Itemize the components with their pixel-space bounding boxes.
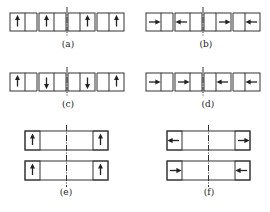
panel-label-b: (b) [200,39,213,49]
panel-e [25,125,108,187]
pole-frame [68,73,80,91]
panel-c [10,67,124,97]
pole-frame [233,13,245,31]
panel-b [146,7,260,37]
pole-frame [161,73,173,91]
panel-label-f: (f) [204,187,214,197]
pole-frame [233,73,245,91]
pole-frame [204,73,216,91]
pole-frame [190,73,202,91]
diagram-canvas: (a) (b) (c) (d) (e) (f) [0,0,270,212]
pole-frame [25,13,37,31]
pole-frame [68,13,80,31]
pole-frame [190,13,202,31]
panel-label-c: (c) [62,99,74,109]
panel-label-a: (a) [62,39,74,49]
panel-a [10,7,124,37]
panel-label-d: (d) [202,99,215,109]
pole-frame [25,73,37,91]
pole-frame [97,73,109,91]
pole-frame [54,73,66,91]
panel-f [167,125,250,187]
panel-d [146,67,260,97]
pole-frame [54,13,66,31]
pole-frame [161,13,173,31]
pole-frame [97,13,109,31]
panel-label-e: (e) [60,187,72,197]
pole-frame [204,13,216,31]
